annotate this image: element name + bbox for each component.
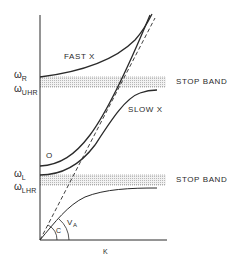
omega-lhr-label: ωLHR bbox=[14, 182, 37, 192]
o-mode-curve bbox=[40, 15, 150, 166]
omega-l-symbol: ω bbox=[14, 168, 22, 179]
omega-lhr-subscript: LHR bbox=[22, 187, 37, 194]
omega-uhr-symbol: ω bbox=[14, 83, 22, 94]
omega-l-subscript: L bbox=[22, 174, 26, 181]
va-subscript: A bbox=[73, 222, 78, 228]
slow-x-label: SLOW X bbox=[128, 106, 163, 114]
va-angle-label: VA bbox=[67, 219, 78, 227]
stop-band-lower bbox=[40, 175, 166, 185]
stop-band-upper-label: STOP BAND bbox=[176, 78, 227, 86]
o-mode-label: O bbox=[46, 152, 53, 160]
omega-lhr-symbol: ω bbox=[14, 181, 22, 192]
stop-band-upper bbox=[40, 77, 166, 87]
omega-r-label: ωR bbox=[14, 70, 27, 80]
omega-uhr-label: ωUHR bbox=[14, 84, 38, 94]
fast-x-label: FAST X bbox=[64, 53, 95, 61]
dispersion-diagram bbox=[0, 0, 233, 265]
k-axis-label: K bbox=[103, 248, 108, 255]
omega-r-symbol: ω bbox=[14, 69, 22, 80]
c-angle-label: C bbox=[56, 227, 62, 234]
omega-uhr-subscript: UHR bbox=[22, 89, 38, 96]
light-line-c bbox=[40, 18, 155, 240]
stop-band-lower-label: STOP BAND bbox=[176, 176, 227, 184]
omega-r-subscript: R bbox=[22, 75, 27, 82]
fast-x-curve bbox=[40, 14, 152, 77]
omega-l-label: ωL bbox=[14, 169, 26, 179]
